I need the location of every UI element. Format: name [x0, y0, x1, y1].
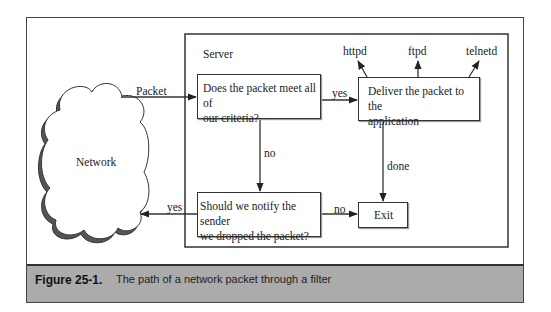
node-deliver-line1: Deliver the packet to the [368, 84, 479, 114]
app-telnetd: telnetd [466, 44, 497, 58]
node-notify-line2: we dropped the packet? [200, 229, 320, 244]
app-ftpd: ftpd [408, 44, 427, 58]
edge-label-criteria-no: no [264, 146, 276, 160]
edge-label-criteria-yes: yes [332, 86, 347, 100]
node-criteria-line1: Does the packet meet all of [203, 81, 320, 111]
network-label: Network [76, 155, 116, 169]
caption-text: The path of a network packet through a f… [116, 273, 331, 285]
edge-to-httpd [358, 61, 367, 77]
edge-label-packet: Packet [136, 84, 167, 98]
edge-label-notify-yes: yes [167, 200, 182, 214]
edge-to-telnetd [469, 61, 479, 77]
figure-caption: Figure 25-1. The path of a network packe… [27, 264, 523, 302]
node-deliver: Deliver the packet to the application [358, 77, 480, 121]
node-criteria-line2: our criteria? [203, 111, 320, 126]
node-criteria: Does the packet meet all of our criteria… [197, 74, 321, 119]
node-exit: Exit [358, 202, 408, 228]
edge-label-notify-no: no [334, 202, 346, 216]
app-httpd: httpd [343, 44, 367, 58]
node-notify: Should we notify the sender we dropped t… [197, 192, 321, 237]
node-deliver-line2: application [368, 114, 479, 129]
node-exit-label: Exit [374, 208, 393, 223]
server-label: Server [203, 47, 233, 61]
caption-number: Figure 25-1. [35, 273, 102, 287]
edge-label-deliver-done: done [387, 159, 409, 173]
node-notify-line1: Should we notify the sender [200, 199, 320, 229]
